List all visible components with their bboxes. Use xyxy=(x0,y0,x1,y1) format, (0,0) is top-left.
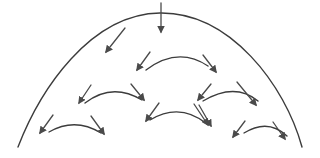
arrow-r2r-right-icon xyxy=(237,82,256,105)
arc-row3-a xyxy=(49,125,101,133)
inner-arcs xyxy=(49,57,287,136)
arc-row3-b xyxy=(150,112,207,124)
cascade-diagram xyxy=(0,0,320,158)
arrow-r1-left-icon xyxy=(137,52,150,70)
arrow-r3c-right-icon xyxy=(273,122,285,139)
arrow-r3b-right-icon xyxy=(194,104,208,125)
arc-row1 xyxy=(146,57,208,70)
arrow-r3c-left-icon xyxy=(233,121,245,137)
arc-row2-right xyxy=(203,92,258,102)
arc-row2-left xyxy=(85,92,142,103)
arrows xyxy=(40,3,285,139)
arc-row3-c xyxy=(244,126,287,136)
arrow-top-left-icon xyxy=(106,28,125,52)
